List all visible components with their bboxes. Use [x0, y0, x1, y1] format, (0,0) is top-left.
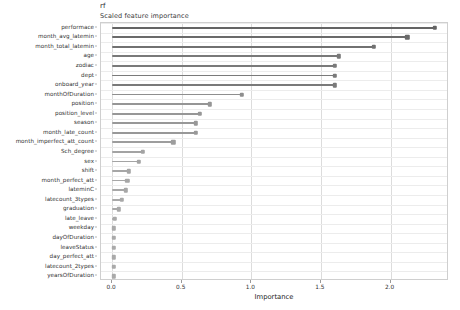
bar-endpoint-dot — [198, 112, 202, 116]
y-axis-labels: performacemonth_avg_lateminmonth_total_l… — [0, 22, 97, 280]
bar-stem — [112, 122, 196, 124]
x-tick-mark-3 — [320, 280, 321, 283]
bar-row — [101, 252, 447, 262]
bar-endpoint-dot — [124, 188, 128, 192]
y-tick-label-yearsOfDuration: yearsOfDuration — [47, 272, 94, 278]
y-tick-label-dept: dept — [81, 72, 94, 78]
bar-endpoint-dot — [333, 64, 337, 68]
bar-endpoint-dot — [405, 35, 409, 39]
bar-row — [101, 147, 447, 157]
y-tick-mark — [95, 170, 97, 171]
y-tick-label-latecount_3types: latecount_3types — [45, 196, 94, 202]
bar-endpoint-dot — [111, 226, 115, 230]
y-tick-label-onboard_year: onboard_year — [55, 81, 94, 87]
bar-endpoint-dot — [111, 274, 115, 278]
bar-row — [101, 128, 447, 138]
bar-row — [101, 271, 447, 280]
bar-row — [101, 243, 447, 253]
bar-row — [101, 118, 447, 128]
bar-stem — [112, 65, 335, 67]
bar-endpoint-dot — [207, 102, 211, 106]
y-tick-mark — [95, 84, 97, 85]
y-tick-label-Sch_degree: Sch_degree — [61, 148, 94, 154]
bar-row — [101, 51, 447, 61]
x-tick-mark-4 — [390, 280, 391, 283]
bar-stem — [112, 84, 335, 86]
y-tick-label-monthOfDuration: monthOfDuration — [44, 91, 94, 97]
y-tick-mark — [95, 26, 97, 27]
y-tick-label-performace: performace — [61, 24, 94, 30]
bar-endpoint-dot — [333, 83, 337, 87]
y-tick-mark — [95, 265, 97, 266]
bar-row — [101, 204, 447, 214]
y-tick-mark — [95, 36, 97, 37]
bar-row — [101, 157, 447, 167]
y-tick-mark — [95, 112, 97, 113]
bar-endpoint-dot — [111, 264, 115, 268]
y-tick-label-latecount_2types: latecount_2types — [45, 263, 94, 269]
y-tick-label-position_level: position_level — [55, 110, 94, 116]
bar-endpoint-dot — [125, 178, 129, 182]
bar-endpoint-dot — [136, 159, 140, 163]
y-tick-label-lateminC: lateminC — [69, 186, 94, 192]
x-tick-label-1: 0.5 — [176, 284, 185, 290]
bar-row — [101, 223, 447, 233]
y-tick-mark — [95, 275, 97, 276]
bar-endpoint-dot — [111, 236, 115, 240]
bar-stem — [112, 113, 200, 115]
bar-row — [101, 99, 447, 109]
bar-endpoint-dot — [127, 169, 131, 173]
y-tick-mark — [95, 256, 97, 257]
y-tick-mark — [95, 131, 97, 132]
bar-endpoint-dot — [193, 131, 197, 135]
chart-title: rf — [100, 2, 106, 10]
y-tick-mark — [95, 179, 97, 180]
bar-row — [101, 195, 447, 205]
bar-endpoint-dot — [111, 245, 115, 249]
chart-root: rf Scaled feature importance performacem… — [0, 0, 460, 310]
y-tick-label-month_imperfect_att_count: month_imperfect_att_count — [16, 138, 94, 144]
y-tick-label-month_total_latemin: month_total_latemin — [35, 43, 94, 49]
y-tick-label-graduation: graduation — [63, 205, 94, 211]
y-tick-mark — [95, 237, 97, 238]
bar-endpoint-dot — [433, 26, 437, 30]
y-tick-mark — [95, 141, 97, 142]
bar-row — [101, 61, 447, 71]
bar-row — [101, 42, 447, 52]
y-tick-mark — [95, 246, 97, 247]
y-tick-label-sex: sex — [84, 158, 94, 164]
bar-stem — [112, 103, 209, 105]
y-tick-mark — [95, 208, 97, 209]
x-tick-mark-2 — [250, 280, 251, 283]
y-tick-mark — [95, 122, 97, 123]
x-tick-label-0: 0.0 — [107, 284, 116, 290]
bar-endpoint-dot — [111, 255, 115, 259]
bar-row — [101, 166, 447, 176]
bar-row — [101, 185, 447, 195]
y-tick-mark — [95, 151, 97, 152]
bar-stem — [112, 94, 241, 96]
y-tick-mark — [95, 189, 97, 190]
bar-stem — [112, 142, 173, 144]
bar-endpoint-dot — [117, 207, 121, 211]
bar-endpoint-dot — [171, 140, 175, 144]
y-tick-label-season: season — [74, 119, 94, 125]
bar-endpoint-dot — [120, 198, 124, 202]
x-tick-mark-0 — [111, 280, 112, 283]
x-tick-label-4: 2.0 — [385, 284, 394, 290]
bar-stem — [112, 27, 435, 29]
x-tick-label-2: 1.0 — [246, 284, 255, 290]
bar-row — [101, 109, 447, 119]
bar-endpoint-dot — [113, 217, 117, 221]
bar-row — [101, 233, 447, 243]
y-tick-mark — [95, 217, 97, 218]
plot-area — [100, 22, 448, 280]
bar-row — [101, 214, 447, 224]
bar-endpoint-dot — [372, 45, 376, 49]
y-tick-label-shift: shift — [82, 167, 94, 173]
y-tick-mark — [95, 65, 97, 66]
y-tick-label-day_perfect_att: day_perfect_att — [50, 253, 94, 259]
bar-endpoint-dot — [193, 121, 197, 125]
y-tick-mark — [95, 227, 97, 228]
y-tick-label-month_late_count: month_late_count — [43, 129, 94, 135]
